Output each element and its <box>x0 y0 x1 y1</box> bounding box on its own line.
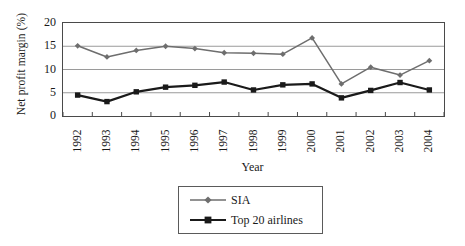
chart-legend: SIA Top 20 airlines <box>178 186 323 234</box>
data-point-square-icon <box>309 81 314 86</box>
legend-item-top-20-airlines: Top 20 airlines <box>179 210 322 230</box>
x-tick-label: 1997 <box>217 120 229 162</box>
y-tick-label: 5 <box>30 86 56 98</box>
data-point-square-icon <box>134 89 139 94</box>
data-point-square-icon <box>104 99 109 104</box>
legend-label-top-20-airlines: Top 20 airlines <box>231 213 303 228</box>
x-tick-label: 1998 <box>247 120 259 162</box>
x-tick-label: 2003 <box>393 120 405 162</box>
data-point-diamond-icon <box>426 58 432 64</box>
plot-canvas <box>63 23 444 116</box>
data-point-diamond-icon <box>251 50 257 56</box>
x-tick-label: 2002 <box>364 120 376 162</box>
series-line <box>78 38 430 84</box>
data-point-diamond-icon <box>397 72 403 78</box>
x-axis-tick-labels: 1992199319941995199619971998199920002001… <box>62 117 443 159</box>
data-point-square-icon <box>251 87 256 92</box>
series-sia <box>75 35 432 87</box>
x-tick-label: 2001 <box>334 120 346 162</box>
y-axis-title: Net profit margin (%) <box>15 0 27 129</box>
x-axis-title: Year <box>62 160 443 175</box>
x-tick-label: 2000 <box>305 120 317 162</box>
data-point-diamond-icon <box>75 43 81 49</box>
data-point-diamond-icon <box>133 48 139 54</box>
data-point-square-icon <box>280 82 285 87</box>
x-tick-label: 1992 <box>71 120 83 162</box>
series-top-20-airlines <box>75 79 432 104</box>
legend-label-sia: SIA <box>231 193 250 208</box>
y-tick-label: 20 <box>30 16 56 28</box>
x-axis-ticks <box>63 112 444 116</box>
data-point-diamond-icon <box>163 43 169 49</box>
x-tick-label: 1994 <box>129 120 141 162</box>
data-point-square-icon <box>339 95 344 100</box>
plot-area <box>62 22 445 117</box>
data-point-diamond-icon <box>104 54 110 60</box>
y-axis-tick-labels: 05101520 <box>28 0 56 246</box>
data-point-diamond-icon <box>280 51 286 57</box>
y-tick-label: 0 <box>30 109 56 121</box>
data-point-square-icon <box>368 88 373 93</box>
x-tick-label: 1995 <box>159 120 171 162</box>
legend-swatch-square-icon <box>188 213 228 227</box>
data-point-square-icon <box>192 83 197 88</box>
y-tick-label: 10 <box>30 63 56 75</box>
x-tick-label: 1996 <box>188 120 200 162</box>
legend-swatch-diamond-icon <box>188 193 228 207</box>
x-tick-label: 2004 <box>422 120 434 162</box>
data-point-square-icon <box>221 79 226 84</box>
y-tick-label: 15 <box>30 39 56 51</box>
data-point-square-icon <box>427 87 432 92</box>
data-point-square-icon <box>75 92 80 97</box>
data-point-square-icon <box>397 80 402 85</box>
data-point-square-icon <box>163 84 168 89</box>
net-profit-margin-line-chart: Net profit margin (%) 05101520 199219931… <box>0 0 465 246</box>
legend-item-sia: SIA <box>179 190 322 210</box>
x-tick-label: 1999 <box>276 120 288 162</box>
x-tick-label: 1993 <box>100 120 112 162</box>
data-point-diamond-icon <box>221 50 227 56</box>
